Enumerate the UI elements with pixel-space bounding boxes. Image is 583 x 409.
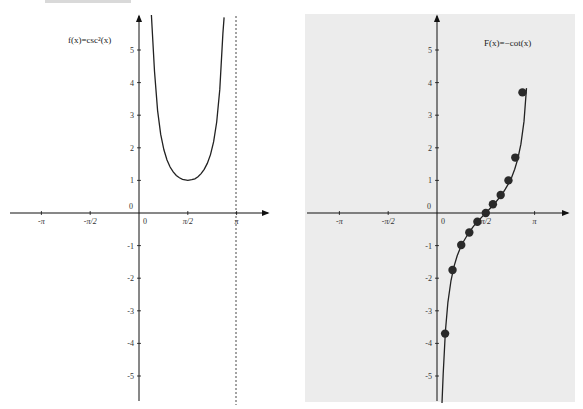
data-point	[511, 153, 519, 161]
y-tick-label: -3	[127, 307, 134, 316]
data-point	[448, 266, 456, 274]
x-tick-label: -π	[38, 217, 46, 226]
x-tick-label: -π/2	[382, 217, 395, 226]
data-point	[489, 200, 497, 208]
data-point	[482, 209, 490, 217]
y-tick-label: 5	[130, 46, 134, 55]
data-point	[457, 241, 465, 249]
data-point	[473, 218, 481, 226]
x-tick-label: -π	[336, 217, 344, 226]
data-point	[441, 329, 449, 337]
data-point	[504, 176, 512, 184]
left-function-label: f(x)=csc²(x)	[68, 35, 111, 45]
left-function-curve	[151, 15, 224, 180]
x-tick-label: 0	[143, 217, 147, 226]
y-tick-label: -1	[425, 242, 432, 251]
right-plot-neg-cot: -π-π/20π/2π 12345-1-2-3-4-5 F(x)=−cot(x)…	[307, 16, 568, 403]
x-tick-label: 0	[441, 217, 445, 226]
right-function-label: F(x)=−cot(x)	[484, 38, 531, 48]
data-point	[518, 88, 526, 96]
y-tick-label: 2	[428, 144, 432, 153]
y-tick-label: 4	[428, 79, 432, 88]
y-tick-label: -5	[425, 372, 432, 381]
y-tick-label: 3	[130, 111, 134, 120]
x-tick-label: π/2	[183, 217, 193, 226]
right-origin-y-label: 0	[427, 202, 431, 211]
y-tick-label: 3	[428, 111, 432, 120]
y-tick-label: 1	[428, 176, 432, 185]
y-tick-label: -5	[127, 372, 134, 381]
y-tick-label: 2	[130, 144, 134, 153]
y-tick-label: 5	[428, 46, 432, 55]
charts-canvas: -π-π/20π/2π 12345-1-2-3-4-5 f(x)=csc²(x)…	[0, 0, 583, 409]
y-tick-label: -1	[127, 242, 134, 251]
x-tick-label: -π/2	[84, 217, 97, 226]
y-tick-label: 1	[130, 176, 134, 185]
data-point	[496, 191, 504, 199]
x-tick-label: π	[235, 217, 240, 226]
y-tick-label: -4	[425, 339, 432, 348]
x-tick-label: π	[533, 217, 538, 226]
right-function-curve	[442, 88, 527, 403]
y-tick-label: 4	[130, 79, 134, 88]
x-tick-label: π/2	[481, 217, 491, 226]
left-plot-csc-squared: -π-π/20π/2π 12345-1-2-3-4-5 f(x)=csc²(x)…	[10, 15, 268, 405]
y-tick-label: -4	[127, 339, 134, 348]
data-point	[465, 228, 473, 236]
left-origin-y-label: 0	[129, 202, 133, 211]
y-tick-label: -2	[425, 274, 432, 283]
y-tick-label: -2	[127, 274, 134, 283]
y-tick-label: -3	[425, 307, 432, 316]
